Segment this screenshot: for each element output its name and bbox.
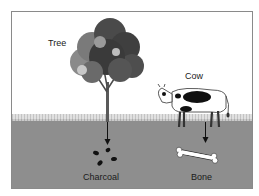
- bone-label: Bone: [191, 172, 212, 182]
- charcoal-label: Charcoal: [83, 172, 119, 182]
- arrow-tree-to-charcoal-icon: [105, 122, 111, 145]
- cow-label: Cow: [185, 71, 203, 81]
- tree-icon: [70, 18, 144, 122]
- cow-icon: [158, 84, 230, 127]
- diagram-frame: Tree Cow Charcoal Bone: [11, 11, 253, 189]
- arrow-cow-to-bone-icon: [203, 122, 209, 143]
- charcoal-icon: [92, 147, 117, 167]
- tree-label: Tree: [48, 38, 66, 48]
- bone-icon: [176, 147, 218, 163]
